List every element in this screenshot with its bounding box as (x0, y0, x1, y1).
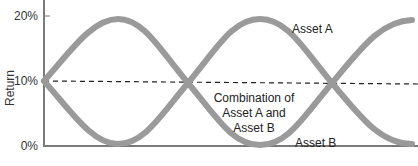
combination-line (44, 81, 418, 84)
asset-b-label: Asset B (295, 136, 336, 151)
chart-canvas (0, 0, 418, 166)
combination-label-2: Asset A and (194, 106, 314, 121)
y-axis-label: Return (3, 70, 17, 106)
y-tick-label-0: 0% (2, 139, 38, 153)
combination-label-3: Asset B (194, 121, 314, 136)
combination-label-1: Combination of (194, 91, 314, 106)
asset-a-label: Asset A (292, 22, 333, 37)
y-tick-label-20: 20% (2, 9, 38, 23)
